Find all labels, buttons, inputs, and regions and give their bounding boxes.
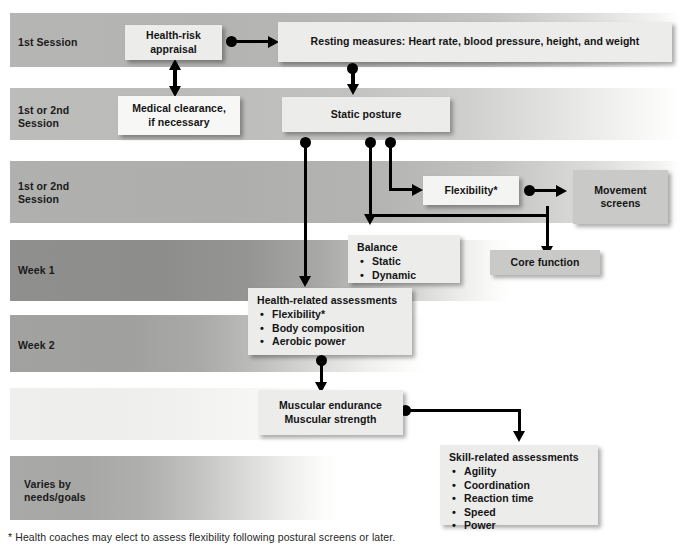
bullet-item: Reaction time: [449, 492, 590, 505]
node-movement-screens[interactable]: Movement screens: [573, 170, 668, 224]
node-title: Skill-related assessments: [449, 451, 590, 464]
node-balance[interactable]: Balance Static Dynamic: [348, 235, 460, 283]
node-resting-measures[interactable]: Resting measures: Heart rate, blood pres…: [278, 22, 672, 62]
band-label-line2: Session: [18, 117, 59, 129]
node-text-line2: screens: [600, 197, 640, 209]
bullet-item: Agility: [449, 465, 590, 478]
node-core-function[interactable]: Core function: [490, 250, 600, 275]
node-flexibility[interactable]: Flexibility*: [423, 176, 519, 205]
node-bullet-list: Flexibility* Body composition Aerobic po…: [257, 308, 404, 348]
arrowhead-down-to-posture: [347, 84, 359, 95]
node-static-posture[interactable]: Static posture: [282, 97, 450, 132]
connector-line-posture-to-balance-v: [369, 144, 372, 219]
flowchart-figure: 1st Session 1st or 2nd Session 1st or 2n…: [0, 0, 684, 560]
band-label-line1: 1st or 2nd: [18, 104, 69, 116]
arrowhead-right-to-flexibility: [412, 184, 423, 196]
node-title: Balance: [357, 241, 452, 254]
band-label-1st-or-2nd-b: 1st or 2nd Session: [18, 180, 69, 206]
connector-line-muscular-to-skill-h: [410, 409, 521, 412]
band-label-line2: needs/goals: [24, 491, 86, 503]
arrowhead-up-to-hra: [169, 59, 181, 70]
node-text: Flexibility*: [444, 184, 497, 197]
node-title: Health-related assessments: [257, 294, 404, 307]
band-label-line1: Varies by: [24, 478, 71, 490]
band-label-week-1: Week 1: [18, 264, 55, 277]
bullet-item: Static: [357, 255, 452, 268]
bullet-item: Coordination: [449, 479, 590, 492]
node-text: Resting measures: Heart rate, blood pres…: [311, 35, 640, 48]
node-skill-related-assessments[interactable]: Skill-related assessments Agility Coordi…: [440, 445, 598, 525]
node-text-line1: Health-risk: [146, 29, 201, 41]
node-medical-clearance[interactable]: Medical clearance, if necessary: [118, 96, 240, 135]
node-text-line2: Muscular strength: [285, 413, 377, 425]
bullet-item: Aerobic power: [257, 335, 404, 348]
bullet-item: Power: [449, 519, 590, 532]
node-muscular-endurance-strength[interactable]: Muscular endurance Muscular strength: [258, 390, 403, 435]
node-health-related-assessments[interactable]: Health-related assessments Flexibility* …: [248, 288, 412, 355]
node-text-line1: Medical clearance,: [132, 102, 226, 114]
connector-line-flexibility-to-core-h: [369, 214, 549, 217]
band-label-line2: Session: [18, 193, 59, 205]
node-health-risk-appraisal[interactable]: Health-risk appraisal: [125, 25, 222, 60]
node-text-line1: Movement: [594, 184, 646, 196]
bullet-item: Dynamic: [357, 269, 452, 282]
arrowhead-right-to-movement-screens: [556, 185, 567, 197]
connector-line-flexibility-to-movement: [534, 189, 558, 192]
band-label-week-2: Week 2: [18, 339, 55, 352]
bullet-item: Speed: [449, 506, 590, 519]
band-label-varies: Varies by needs/goals: [24, 478, 86, 504]
band-label-1st-session: 1st Session: [18, 36, 77, 49]
connector-line-posture-to-health: [304, 144, 307, 280]
node-bullet-list: Static Dynamic: [357, 255, 452, 282]
figure-footnote: * Health coaches may elect to assess fle…: [8, 531, 395, 543]
bullet-item: Flexibility*: [257, 308, 404, 321]
connector-line-posture-to-flexibility-v: [389, 144, 392, 190]
band-label-1st-or-2nd-a: 1st or 2nd Session: [18, 104, 69, 130]
bullet-item: Body composition: [257, 322, 404, 335]
node-bullet-list: Agility Coordination Reaction time Speed…: [449, 465, 590, 532]
arrowhead-down-to-health-assessments: [299, 276, 311, 287]
node-text-line1: Muscular endurance: [279, 399, 382, 411]
band-label-line1: 1st or 2nd: [18, 180, 69, 192]
connector-line-hra-to-resting: [236, 40, 270, 43]
node-text: Core function: [511, 256, 580, 269]
node-text: Static posture: [331, 108, 402, 121]
node-text-line2: appraisal: [150, 43, 197, 55]
node-text-line2: if necessary: [148, 116, 209, 128]
arrowhead-down-to-skill-assessments: [513, 431, 525, 442]
